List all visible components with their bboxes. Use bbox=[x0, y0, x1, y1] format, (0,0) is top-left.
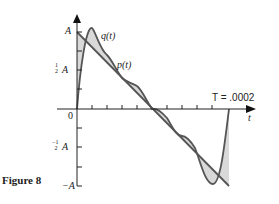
y-label-half-A: A bbox=[62, 65, 68, 75]
y-label-A: A bbox=[65, 26, 71, 36]
period-label: T = .0002 bbox=[212, 92, 254, 103]
y-label-half-A-fraction: 12 bbox=[55, 62, 58, 74]
y-label-neg-half-A: A bbox=[62, 142, 68, 152]
y-label-neg-A: −A bbox=[62, 181, 75, 191]
origin-label: 0 bbox=[68, 111, 73, 121]
y-axis-arrow-icon bbox=[73, 14, 81, 23]
figure-caption: Figure 8 bbox=[2, 174, 41, 186]
curve-label-q: q(t) bbox=[101, 31, 115, 41]
y-label-neg-half-A-fraction: −1 2 bbox=[52, 139, 58, 151]
curve-label-p: p(t) bbox=[117, 60, 131, 70]
x-axis-label: t bbox=[248, 113, 251, 123]
